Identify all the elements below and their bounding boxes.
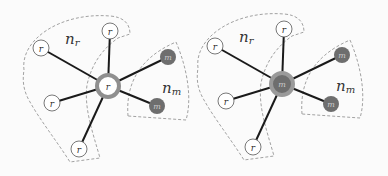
nr-label: nr	[239, 28, 255, 46]
svg-text:r: r	[213, 42, 218, 52]
svg-text:m: m	[153, 102, 161, 111]
right-diagram: r r r r m m m nr nm	[197, 14, 363, 160]
svg-text:m: m	[278, 80, 286, 89]
left-diagram: r r r r m m r nr nm	[23, 16, 189, 162]
nm-label: nm	[162, 79, 181, 97]
node-r: r	[102, 23, 118, 39]
svg-text:m: m	[164, 53, 172, 62]
diagram-canvas: r r r r m m r nr nm r r r r m m	[0, 0, 388, 176]
svg-text:r: r	[106, 82, 111, 92]
nm-label: nm	[336, 77, 355, 95]
node-m: m	[160, 49, 176, 65]
svg-text:r: r	[77, 145, 82, 155]
svg-text:r: r	[282, 25, 287, 35]
node-r: r	[218, 93, 234, 109]
node-r: r	[245, 139, 261, 155]
center-node: r	[97, 75, 119, 97]
node-r: r	[44, 95, 60, 111]
node-r: r	[276, 21, 292, 37]
svg-text:r: r	[108, 27, 113, 37]
nr-label: nr	[65, 30, 81, 48]
node-m: m	[323, 96, 339, 112]
node-m: m	[149, 98, 165, 114]
node-m: m	[334, 47, 350, 63]
node-r: r	[71, 141, 87, 157]
svg-text:m: m	[327, 100, 335, 109]
center-node: m	[271, 73, 293, 95]
svg-text:r: r	[251, 143, 256, 153]
svg-text:r: r	[224, 97, 229, 107]
svg-text:r: r	[39, 44, 44, 54]
node-r: r	[207, 38, 223, 54]
svg-text:m: m	[338, 51, 346, 60]
svg-text:r: r	[50, 99, 55, 109]
node-r: r	[33, 40, 49, 56]
